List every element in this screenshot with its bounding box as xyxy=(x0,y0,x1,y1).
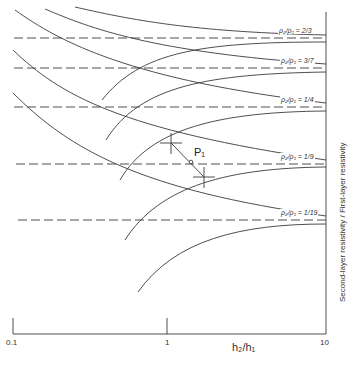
label-p1: P₁ xyxy=(194,146,205,158)
curve-1-9-lower xyxy=(125,167,326,240)
label-ratio-2-3: ρ₂/ρ₁ = 2/3 xyxy=(278,27,313,34)
curve-1-9-upper xyxy=(13,50,326,160)
label-ratio-1-9: ρ₂/ρ₁ = 1/9 xyxy=(280,153,315,160)
resistivity-chart xyxy=(0,0,354,369)
point-p1 xyxy=(189,160,193,164)
curve-3-7-upper xyxy=(45,9,326,64)
x-tick-label-0.1: 0.1 xyxy=(6,338,17,347)
x-tick-label-1: 1 xyxy=(165,338,169,347)
curve-3-7-lower xyxy=(106,72,326,140)
label-ratio-1-4: ρ₂/ρ₁ = 1/4 xyxy=(280,96,315,103)
label-ratio-1-19: ρ₂/ρ₁ = 1/19 xyxy=(280,209,318,216)
asymptote-lines xyxy=(14,38,326,220)
y-axis-label: Second-layer resistivity / First-layer r… xyxy=(338,142,347,302)
curve-2-3-lower xyxy=(102,42,326,100)
x-tick-label-10: 10 xyxy=(320,338,329,347)
curve-1-19-lower xyxy=(138,224,326,292)
label-ratio-3-7: ρ₂/ρ₁ = 3/7 xyxy=(280,57,315,64)
x-axis-label: h₂/h₁ xyxy=(232,341,255,353)
curve-1-4-lower xyxy=(120,111,326,180)
